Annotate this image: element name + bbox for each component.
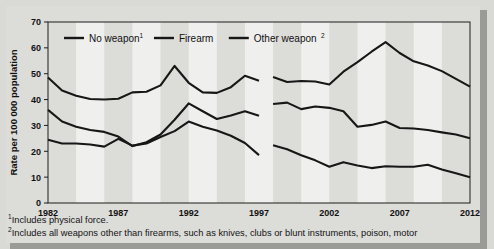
svg-text:No weapon: No weapon xyxy=(89,33,140,44)
svg-text:10: 10 xyxy=(31,173,41,183)
svg-text:1: 1 xyxy=(139,32,143,39)
figure-container: 0102030405060701982198719921997200220072… xyxy=(0,0,494,249)
footnote-1: 1Includes physical force. xyxy=(8,213,484,226)
line-chart: 0102030405060701982198719921997200220072… xyxy=(0,0,494,249)
svg-text:60: 60 xyxy=(31,43,41,53)
svg-text:2: 2 xyxy=(321,32,325,39)
footnote-1-text: Includes physical force. xyxy=(12,215,109,225)
chart-legend: No weapon1FirearmOther weapon2 xyxy=(64,32,325,44)
y-axis-title: Rate per 100 000 population xyxy=(8,49,19,175)
svg-text:Firearm: Firearm xyxy=(179,33,213,44)
svg-text:20: 20 xyxy=(31,147,41,157)
footnote-2: 2Includes all weapons other than firearm… xyxy=(8,226,484,239)
svg-text:Rate per 100 000 population: Rate per 100 000 population xyxy=(8,49,19,175)
chart-background-bands xyxy=(48,22,470,203)
svg-text:50: 50 xyxy=(31,69,41,79)
svg-text:70: 70 xyxy=(31,17,41,27)
footnote-2-text: Includes all weapons other than firearms… xyxy=(12,229,418,239)
svg-text:30: 30 xyxy=(31,121,41,131)
svg-text:Other weapon: Other weapon xyxy=(254,33,317,44)
svg-text:40: 40 xyxy=(31,95,41,105)
svg-text:0: 0 xyxy=(36,198,41,208)
footnotes: 1Includes physical force. 2Includes all … xyxy=(8,213,484,240)
